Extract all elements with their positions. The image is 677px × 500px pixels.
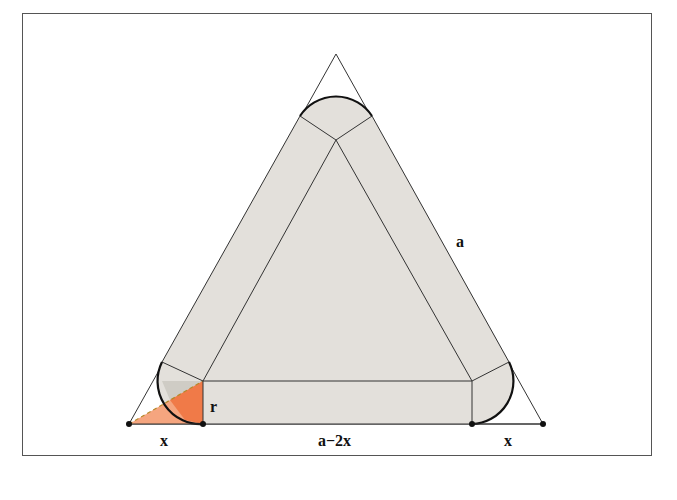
- label-left-x: x: [160, 432, 168, 449]
- label-side-a: a: [456, 233, 464, 250]
- base-dot-2: [200, 421, 206, 427]
- base-dot-1: [126, 421, 132, 427]
- label-radius-r: r: [210, 398, 217, 415]
- label-right-x: x: [504, 432, 512, 449]
- base-dot-4: [540, 421, 546, 427]
- rounded-triangle-fill: [158, 97, 514, 425]
- base-dot-3: [469, 421, 475, 427]
- geometry-diagram: a r x a−2x x: [0, 0, 677, 500]
- label-middle-a-2x: a−2x: [318, 432, 351, 449]
